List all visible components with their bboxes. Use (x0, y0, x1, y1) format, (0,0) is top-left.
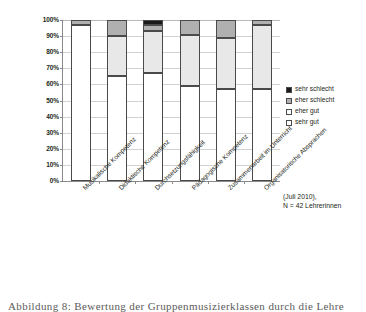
legend-item: sehr schlecht (286, 84, 364, 95)
bar-column (71, 20, 91, 181)
bar-segment (252, 25, 272, 89)
x-tick-mark (208, 181, 209, 184)
y-tick-mark (60, 181, 63, 182)
bar-segment (143, 20, 163, 25)
legend-label: sehr gut (295, 119, 319, 126)
y-tick-label: 100% (43, 17, 59, 24)
legend-swatch-icon (286, 87, 292, 93)
y-tick-label: 30% (46, 129, 59, 136)
legend-item: eher gut (286, 106, 364, 117)
y-tick-label: 40% (46, 113, 59, 120)
y-tick-label: 20% (46, 146, 59, 153)
legend-label: sehr schlecht (295, 86, 334, 93)
bar-segment (71, 25, 91, 181)
chart-annotation: (Juli 2010), N = 42 Lehrerinnen (283, 192, 341, 210)
bar-segment (107, 20, 127, 36)
legend-item: eher schlecht (286, 95, 364, 106)
bar-segment (180, 35, 200, 87)
figure-caption: Abbildung 8: Bewertung der Gruppenmusizi… (8, 300, 360, 312)
bar-segment (143, 25, 163, 31)
legend-label: eher gut (295, 108, 319, 115)
legend-swatch-icon (286, 120, 292, 126)
chart-legend: sehr schlechteher schlechteher gutsehr g… (286, 84, 364, 128)
legend-label: eher schlecht (295, 97, 334, 104)
annotation-line-date: (Juli 2010), (283, 192, 341, 201)
plot-area: 100%90%80%70%60%50%40%30%20%10%0% (62, 20, 280, 182)
bar-segment (216, 38, 236, 90)
x-tick-mark (99, 181, 100, 184)
bar-segment (71, 20, 91, 25)
bar-segment (180, 20, 200, 34)
x-tick-mark (135, 181, 136, 184)
legend-item: sehr gut (286, 117, 364, 128)
bar-segment (252, 20, 272, 25)
bar-segment (107, 36, 127, 76)
bar-segment (143, 31, 163, 73)
y-tick-label: 50% (46, 97, 59, 104)
bar-series-group (63, 20, 280, 181)
bar-segment (216, 20, 236, 38)
y-tick-label: 70% (46, 65, 59, 72)
y-tick-label: 10% (46, 162, 59, 169)
legend-swatch-icon (286, 109, 292, 115)
annotation-line-sample-size: N = 42 Lehrerinnen (283, 201, 341, 210)
x-tick-mark (244, 181, 245, 184)
y-tick-label: 80% (46, 49, 59, 56)
y-tick-label: 60% (46, 81, 59, 88)
y-tick-label: 90% (46, 33, 59, 40)
legend-swatch-icon (286, 98, 292, 104)
x-tick-mark (172, 181, 173, 184)
y-tick-label: 0% (50, 178, 59, 185)
